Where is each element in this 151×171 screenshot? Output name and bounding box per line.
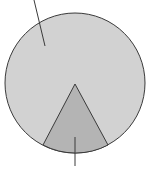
pie-chart <box>0 0 151 171</box>
pie-chart-svg <box>0 0 151 171</box>
